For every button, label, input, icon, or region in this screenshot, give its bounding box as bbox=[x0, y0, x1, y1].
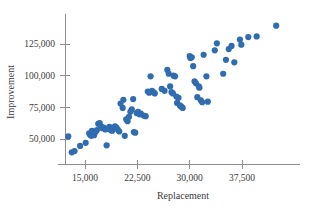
data-point bbox=[203, 73, 209, 79]
data-point bbox=[196, 85, 202, 91]
chart-canvas: 50,00075,000100,000125,000 15,00022,5003… bbox=[0, 0, 309, 211]
data-point bbox=[220, 71, 226, 77]
y-axis-title: Improvement bbox=[5, 65, 16, 119]
data-point bbox=[120, 105, 126, 111]
data-point bbox=[214, 40, 220, 46]
y-tick-label: 100,000 bbox=[24, 71, 55, 81]
data-point bbox=[143, 113, 149, 119]
data-point bbox=[65, 133, 71, 139]
x-tick-label: 15,000 bbox=[72, 173, 98, 183]
data-point bbox=[116, 128, 122, 134]
data-point bbox=[201, 52, 207, 58]
data-point bbox=[231, 59, 237, 65]
data-point bbox=[147, 73, 153, 79]
data-point bbox=[190, 63, 196, 69]
data-point bbox=[122, 133, 128, 139]
data-point bbox=[228, 43, 234, 49]
data-point bbox=[167, 83, 173, 89]
axes-group bbox=[58, 14, 300, 164]
data-point bbox=[189, 54, 195, 60]
data-point bbox=[223, 57, 229, 63]
data-point bbox=[104, 142, 110, 148]
data-point bbox=[254, 33, 260, 39]
data-point bbox=[245, 34, 251, 40]
x-axis-title: Replacement bbox=[157, 190, 209, 201]
data-point bbox=[71, 148, 77, 154]
x-ticks-group: 15,00022,50030,00037,500 bbox=[72, 160, 255, 183]
x-tick-label: 22,500 bbox=[124, 173, 150, 183]
y-ticks-group: 50,00075,000100,000125,000 bbox=[24, 39, 70, 144]
data-point bbox=[120, 97, 126, 103]
scatter-plot-figure: 50,00075,000100,000125,000 15,00022,5003… bbox=[0, 0, 309, 211]
data-point bbox=[199, 99, 205, 105]
y-tick-label: 75,000 bbox=[29, 103, 55, 113]
data-point bbox=[212, 47, 218, 53]
data-point bbox=[180, 105, 186, 111]
data-point bbox=[152, 90, 158, 96]
data-point bbox=[161, 88, 167, 94]
data-points-group bbox=[65, 23, 279, 156]
data-point bbox=[172, 73, 178, 79]
data-point bbox=[132, 130, 138, 136]
data-point bbox=[77, 143, 83, 149]
data-point bbox=[130, 96, 136, 102]
y-tick-label: 50,000 bbox=[29, 134, 55, 144]
x-tick-label: 37,500 bbox=[229, 173, 255, 183]
data-point bbox=[83, 140, 89, 146]
y-tick-label: 125,000 bbox=[24, 39, 55, 49]
data-point bbox=[129, 106, 135, 112]
x-tick-label: 30,000 bbox=[177, 173, 203, 183]
data-point bbox=[175, 95, 181, 101]
data-point bbox=[205, 99, 211, 105]
data-point bbox=[238, 42, 244, 48]
data-point bbox=[273, 23, 279, 29]
